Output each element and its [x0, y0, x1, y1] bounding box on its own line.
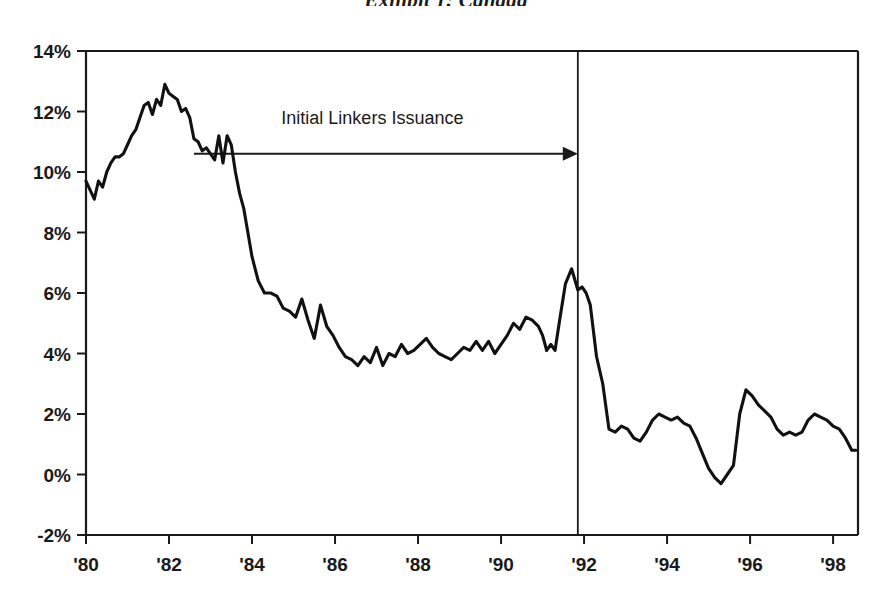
- x-tick-label: '80: [73, 554, 99, 575]
- series-line: [86, 84, 856, 483]
- x-tick-label: '92: [571, 554, 597, 575]
- y-tick-label: 14%: [33, 41, 71, 62]
- data-series-group: [86, 84, 856, 483]
- y-axis-ticks: 14%12%10%8%6%4%2%0%-2%: [33, 41, 86, 546]
- annotation-group: Initial Linkers Issuance: [194, 108, 578, 161]
- x-tick-label: '88: [405, 554, 431, 575]
- x-tick-label: '96: [737, 554, 763, 575]
- x-tick-label: '94: [654, 554, 680, 575]
- x-tick-label: '84: [239, 554, 265, 575]
- y-tick-label: 10%: [33, 162, 71, 183]
- annotation-label: Initial Linkers Issuance: [281, 108, 463, 128]
- x-tick-label: '98: [820, 554, 846, 575]
- y-tick-label: 0%: [44, 465, 72, 486]
- chart-title: Exhibit 1: Canada: [0, 0, 892, 6]
- y-tick-label: 8%: [44, 223, 72, 244]
- annotation-arrow-head: [563, 147, 578, 161]
- y-tick-label: 6%: [44, 283, 72, 304]
- x-axis-ticks: '80'82'84'86'88'90'92'94'96'98: [73, 535, 846, 575]
- line-chart-plot: 14%12%10%8%6%4%2%0%-2% '80'82'84'86'88'9…: [0, 0, 892, 610]
- x-tick-label: '82: [156, 554, 182, 575]
- x-tick-label: '86: [322, 554, 348, 575]
- y-tick-label: 12%: [33, 102, 71, 123]
- y-tick-label: -2%: [37, 525, 71, 546]
- x-tick-label: '90: [488, 554, 514, 575]
- y-tick-label: 4%: [44, 344, 72, 365]
- chart-figure: Exhibit 1: Canada 14%12%10%8%6%4%2%0%-2%…: [0, 0, 892, 610]
- chart-axes: [86, 51, 858, 535]
- y-tick-label: 2%: [44, 404, 72, 425]
